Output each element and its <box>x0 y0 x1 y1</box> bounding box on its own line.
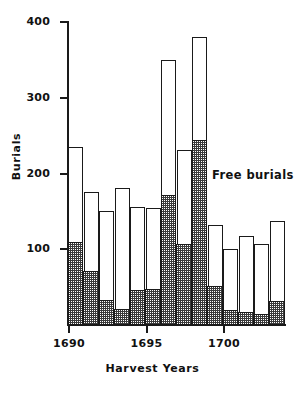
bar-free-segment-1701 <box>238 312 253 326</box>
bar-free-segment-1703 <box>269 301 284 325</box>
y-tick-label-400: 400 <box>16 16 50 27</box>
y-tick-300 <box>60 97 68 99</box>
bar-1703 <box>270 221 285 325</box>
x-tick-label-1700: 1700 <box>208 337 240 350</box>
x-tick-label-1690: 1690 <box>53 337 85 350</box>
bar-1696 <box>161 60 176 325</box>
burials-bar-chart: 100200300400 169016951700 Free burials H… <box>0 0 305 393</box>
y-tick-200 <box>60 173 68 175</box>
bar-free-segment-1692 <box>99 300 114 325</box>
bar-1690 <box>68 147 83 325</box>
bar-1695 <box>146 208 161 325</box>
x-tick-label-1695: 1695 <box>131 337 163 350</box>
y-tick-label-300: 300 <box>16 92 50 103</box>
bar-1692 <box>99 211 114 325</box>
bar-free-segment-1693 <box>114 309 129 326</box>
bar-free-segment-1700 <box>223 310 238 325</box>
y-tick-100 <box>60 248 68 250</box>
bar-free-segment-1690 <box>68 242 83 325</box>
free-burials-annotation: Free burials <box>212 168 294 182</box>
x-tick-1700 <box>223 324 225 333</box>
bar-free-segment-1691 <box>83 271 98 326</box>
bar-free-segment-1698 <box>192 140 207 326</box>
bar-free-segment-1702 <box>254 314 269 325</box>
y-tick-400 <box>60 21 68 23</box>
bar-1691 <box>84 192 99 325</box>
bar-free-segment-1695 <box>145 289 160 325</box>
x-tick-1690 <box>68 324 70 333</box>
bar-1701 <box>239 236 254 325</box>
bar-free-segment-1699 <box>207 286 222 325</box>
bar-1697 <box>177 150 192 325</box>
y-tick-label-100: 100 <box>16 243 50 254</box>
bar-1702 <box>254 244 269 325</box>
bar-1700 <box>223 249 238 326</box>
bar-free-segment-1694 <box>130 290 145 326</box>
bar-free-segment-1696 <box>161 195 176 325</box>
bar-1699 <box>208 225 223 325</box>
bar-1698 <box>192 37 207 325</box>
bar-1693 <box>115 188 130 325</box>
bar-free-segment-1697 <box>176 244 191 325</box>
x-axis-title: Harvest Years <box>0 362 305 375</box>
y-axis-title: Burials <box>10 117 23 197</box>
bar-1694 <box>130 207 145 325</box>
x-tick-1695 <box>146 324 148 333</box>
